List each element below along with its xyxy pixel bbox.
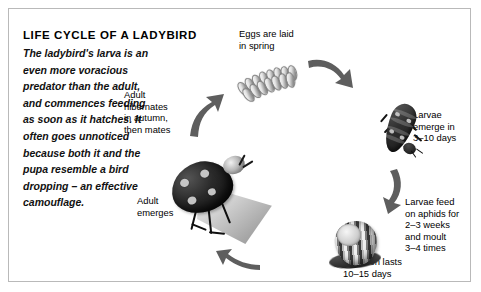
ladybird-larva-photo	[377, 97, 443, 159]
adult-ladybird-photo	[167, 152, 279, 248]
ladybird-eggs-photo	[237, 61, 311, 103]
arrow-left-icon	[214, 246, 262, 278]
arrow-up-right-icon	[184, 92, 226, 142]
arrow-curve-down-left-icon	[381, 167, 407, 219]
stage-label-larvae-feed: Larvae feed on aphids for 2–3 weeks and …	[405, 196, 459, 254]
diagram-frame: LIFE CYCLE OF A LADYBIRD The ladybird's …	[8, 8, 471, 282]
ladybird-pupa-photo	[327, 216, 389, 272]
stage-label-hibernate: Adult hibernates in autumn, then mates	[124, 89, 170, 135]
stage-label-eggs: Eggs are laid in spring	[239, 28, 294, 51]
page-title: LIFE CYCLE OF A LADYBIRD	[23, 29, 197, 41]
arrow-curve-down-right-icon	[306, 55, 358, 99]
